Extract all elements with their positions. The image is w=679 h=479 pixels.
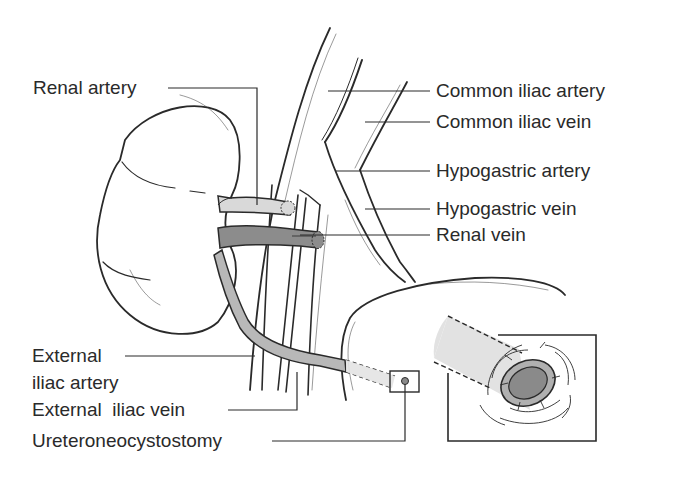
label-common-iliac-vein: Common iliac vein (436, 111, 591, 133)
label-external-iliac-artery-line2: iliac artery (32, 372, 119, 394)
label-renal-vein: Renal vein (436, 224, 526, 246)
renal-vein-graft (218, 226, 324, 249)
label-external-iliac-vein: External iliac vein (32, 399, 185, 421)
anastomosis-inset (434, 316, 596, 441)
label-ureteroneocystostomy: Ureteroneocystostomy (32, 430, 222, 452)
label-external-iliac-artery-line1: External (32, 345, 102, 367)
label-hypogastric-vein: Hypogastric vein (436, 198, 576, 220)
kidney (97, 95, 240, 334)
kidney-transplant-diagram: Renal artery Common iliac artery Common … (0, 0, 679, 479)
label-hypogastric-artery: Hypogastric artery (436, 160, 590, 182)
label-renal-artery: Renal artery (33, 77, 137, 99)
label-common-iliac-artery: Common iliac artery (436, 80, 605, 102)
ureter (214, 250, 395, 388)
